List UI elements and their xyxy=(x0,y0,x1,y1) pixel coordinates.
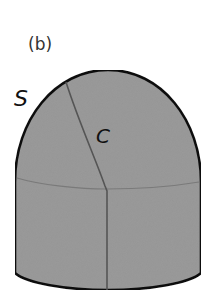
curve-label: C xyxy=(96,124,110,148)
surface-s xyxy=(15,70,201,290)
surface-label: S xyxy=(14,86,28,111)
panel-label: (b) xyxy=(28,34,52,54)
